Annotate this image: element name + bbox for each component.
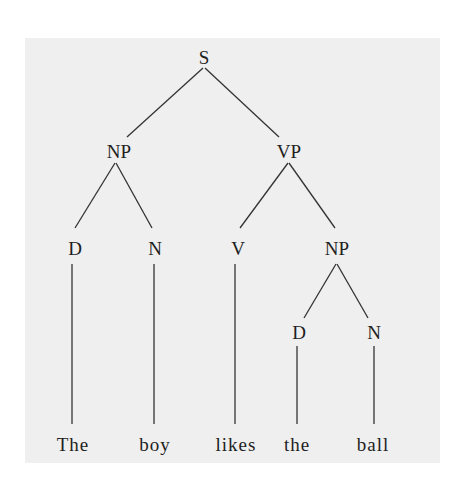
word-the-2: the (284, 434, 310, 455)
edge-s-vp (205, 68, 279, 137)
edge-vp-np (289, 163, 335, 228)
tree-words: The boy likes the ball (57, 434, 390, 455)
node-v: V (231, 238, 245, 259)
edge-np2-d (304, 264, 336, 318)
node-d-subject: D (68, 238, 82, 259)
word-boy: boy (139, 434, 171, 455)
word-likes: likes (216, 434, 257, 455)
syntax-tree: S NP VP D N V NP D N The boy likes the b… (0, 0, 462, 481)
edge-vp-v (240, 163, 288, 228)
edge-np-d (75, 163, 115, 228)
node-n-subject: N (148, 238, 162, 259)
node-np-subject: NP (107, 141, 131, 162)
edge-np2-n (337, 264, 368, 318)
edge-s-np (127, 68, 203, 137)
node-d-object: D (292, 322, 306, 343)
node-np-object: NP (325, 238, 349, 259)
node-n-object: N (367, 322, 381, 343)
word-the: The (57, 434, 90, 455)
tree-nodes: S NP VP D N V NP D N (68, 47, 381, 343)
node-vp: VP (277, 141, 301, 162)
node-s: S (199, 47, 210, 68)
word-ball: ball (357, 434, 390, 455)
edge-np-n (116, 163, 152, 228)
